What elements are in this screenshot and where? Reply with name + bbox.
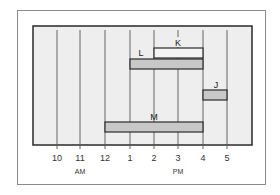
pm-label: PM <box>173 168 184 175</box>
bar-j-label: J <box>214 80 219 90</box>
tick-2: 2 <box>151 153 156 163</box>
tick-4: 4 <box>200 153 205 163</box>
tick-3: 3 <box>175 153 180 163</box>
x-axis-ticks: 10 11 12 1 2 3 4 5 <box>52 153 230 163</box>
bar-l-label: L <box>138 48 143 58</box>
gantt-chart: K L J M 10 11 12 1 2 3 4 5 AM PM <box>0 0 280 195</box>
tick-11: 11 <box>75 153 84 163</box>
bar-j-rect <box>203 90 227 100</box>
tick-10: 10 <box>52 153 62 163</box>
am-label: AM <box>75 168 86 175</box>
bar-m-rect <box>105 122 203 132</box>
tick-5: 5 <box>224 153 229 163</box>
bar-l-rect <box>130 59 203 69</box>
bar-k-rect <box>154 48 203 58</box>
tick-12: 12 <box>100 153 110 163</box>
tick-1: 1 <box>127 153 132 163</box>
bar-m-label: M <box>150 112 158 122</box>
bar-k-label: K <box>175 38 181 48</box>
